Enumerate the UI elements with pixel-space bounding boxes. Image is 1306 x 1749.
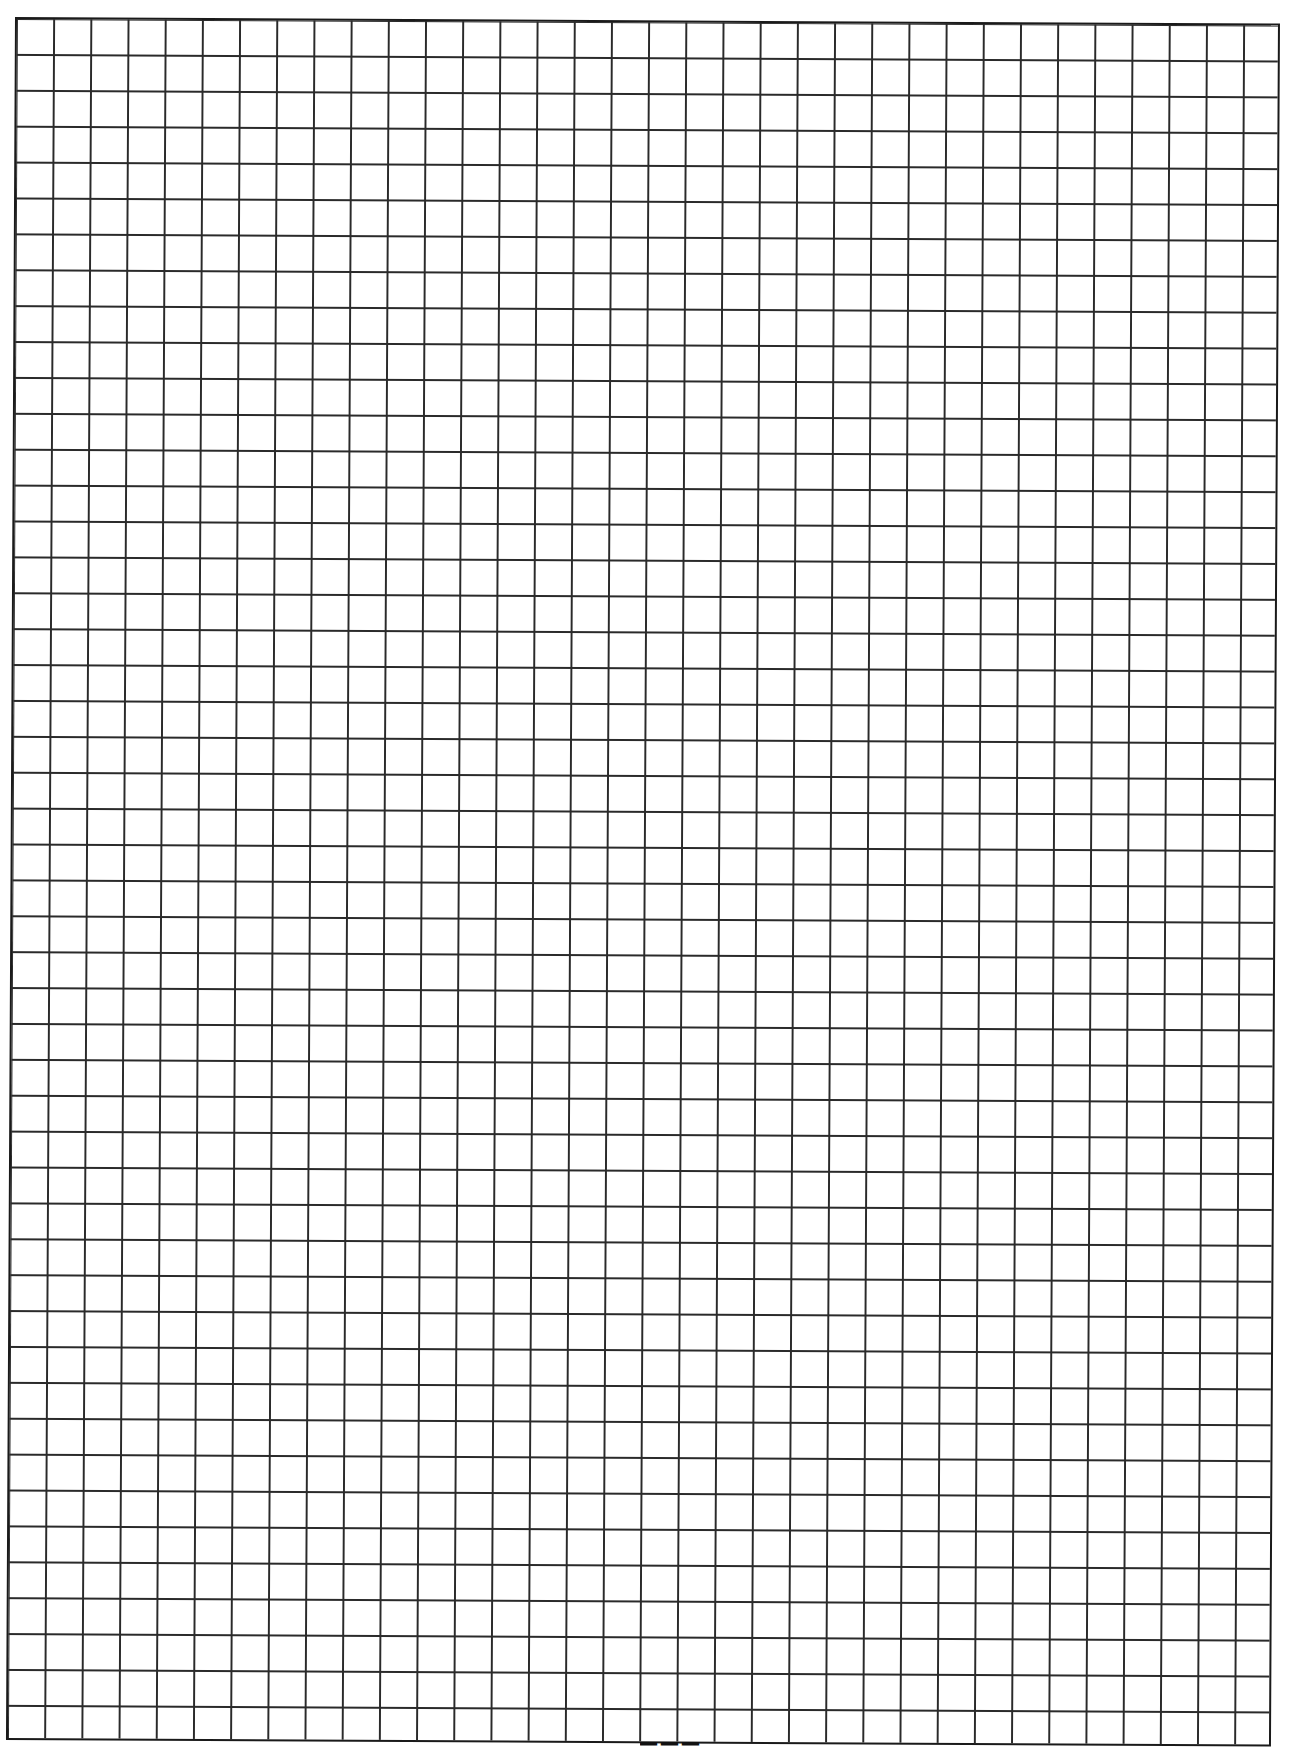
graph-paper-sheet <box>6 17 1280 1747</box>
grid <box>6 17 1280 1747</box>
page-number: ▔▔▔ <box>640 1741 703 1749</box>
